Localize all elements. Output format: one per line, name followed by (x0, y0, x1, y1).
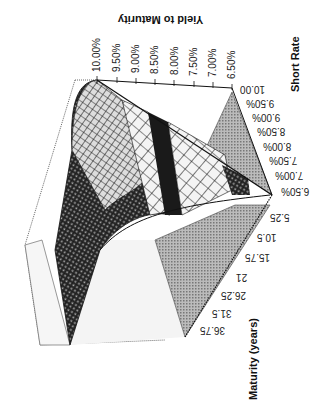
yield-tick: 9.50% (111, 44, 122, 72)
short-rate-tick: 9.00% (252, 112, 280, 123)
yield-tick: 7.50% (188, 48, 199, 76)
maturity-tick: 10.5 (257, 232, 276, 243)
yield-tick: 10.00% (91, 38, 102, 72)
yield-tick: 6.50% (226, 51, 237, 79)
yield-tick: 8.00% (169, 47, 180, 75)
maturity-tick: 36.75 (200, 325, 225, 336)
maturity-tick: 26.25 (221, 290, 246, 301)
yield-tick: 7.00% (207, 49, 218, 77)
yield-tick: 8.50% (149, 46, 160, 74)
short-rate-tick: 10.00 (240, 84, 265, 95)
short-rate-tick: 8.50% (257, 126, 285, 137)
yield-tick: 9.00% (130, 45, 141, 73)
maturity-axis-title: Maturity (years) (247, 318, 259, 400)
short-rate-tick: 8.00% (263, 141, 291, 152)
short-rate-tick: 6.50% (281, 186, 309, 197)
short-rate-tick: 7.00% (275, 170, 303, 181)
short-rate-tick: 9.50% (246, 98, 274, 109)
maturity-tick: 15.75 (245, 252, 270, 263)
yield-axis-ticks (97, 76, 232, 90)
maturity-tick: 31.5 (212, 308, 231, 319)
short-rate-tick: 7.50% (269, 155, 297, 166)
maturity-tick: 21 (236, 272, 247, 283)
chart-title: Yield to Maturity (118, 14, 203, 26)
surface-chart (0, 0, 327, 400)
short-rate-axis-title: Short Rate (289, 36, 301, 92)
maturity-tick: 5.25 (270, 212, 289, 223)
